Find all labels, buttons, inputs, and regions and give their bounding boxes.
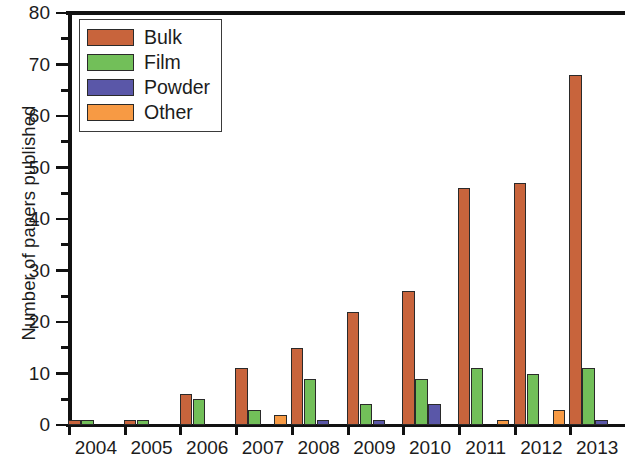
bar: [373, 420, 385, 425]
y-tick-major: [56, 424, 68, 427]
bar: [235, 368, 247, 425]
x-tick: [514, 425, 517, 435]
legend-swatch-icon: [87, 104, 134, 121]
x-tick-label: 2009: [342, 437, 406, 459]
y-tick-label: 80: [4, 2, 50, 24]
y-tick-minor: [61, 398, 68, 401]
legend-label: Powder: [144, 78, 210, 98]
y-tick-major: [56, 166, 68, 169]
bar: [595, 420, 607, 425]
bar: [582, 368, 594, 425]
bar: [193, 399, 205, 425]
bar: [428, 404, 440, 425]
x-tick-label: 2007: [231, 437, 295, 459]
x-tick-label: 2005: [120, 437, 184, 459]
y-tick-label: 10: [4, 363, 50, 385]
y-tick-minor: [61, 140, 68, 143]
bar: [248, 410, 260, 425]
y-tick-minor: [61, 89, 68, 92]
y-tick-label: 0: [4, 414, 50, 436]
y-tick-major: [56, 269, 68, 272]
legend-swatch-icon: [87, 54, 134, 71]
bar: [81, 420, 93, 425]
bar-chart-figure: Number of papers published 0102030405060…: [0, 0, 625, 469]
y-tick-minor: [61, 37, 68, 40]
y-tick-major: [56, 115, 68, 118]
x-tick: [402, 425, 405, 435]
legend-item-other: Other: [87, 100, 210, 125]
bar: [304, 379, 316, 425]
x-tick: [124, 425, 127, 435]
bar: [274, 415, 286, 425]
x-tick-label: 2004: [64, 437, 128, 459]
bar: [180, 394, 192, 425]
x-tick: [235, 425, 238, 435]
y-tick-label: 60: [4, 105, 50, 127]
x-tick-label: 2006: [175, 437, 239, 459]
y-tick-label: 30: [4, 260, 50, 282]
y-tick-label: 20: [4, 311, 50, 333]
y-tick-label: 50: [4, 157, 50, 179]
x-tick: [68, 425, 71, 435]
x-tick: [569, 425, 572, 435]
bar: [569, 75, 581, 425]
x-tick-label: 2013: [565, 437, 625, 459]
bar: [137, 420, 149, 425]
y-tick-major: [56, 218, 68, 221]
legend-label: Bulk: [144, 28, 182, 48]
y-tick-major: [56, 372, 68, 375]
x-tick-label: 2012: [509, 437, 573, 459]
y-tick-minor: [61, 346, 68, 349]
legend-label: Other: [144, 103, 193, 123]
bar: [458, 188, 470, 425]
x-tick: [458, 425, 461, 435]
x-tick-label: 2011: [454, 437, 518, 459]
bar: [402, 291, 414, 425]
bar: [471, 368, 483, 425]
y-tick-minor: [61, 192, 68, 195]
legend-item-powder: Powder: [87, 75, 210, 100]
bar: [497, 420, 509, 425]
legend-swatch-icon: [87, 79, 134, 96]
x-tick: [347, 425, 350, 435]
y-tick-label: 40: [4, 208, 50, 230]
bar: [317, 420, 329, 425]
bar: [527, 374, 539, 426]
bar: [553, 410, 565, 425]
y-tick-label: 70: [4, 54, 50, 76]
y-tick-major: [56, 12, 68, 15]
legend-swatch-icon: [87, 29, 134, 46]
y-tick-major: [56, 63, 68, 66]
x-tick: [179, 425, 182, 435]
bar: [360, 404, 372, 425]
legend-item-film: Film: [87, 50, 210, 75]
x-tick: [291, 425, 294, 435]
bar: [514, 183, 526, 425]
legend: BulkFilmPowderOther: [79, 19, 222, 132]
bar: [415, 379, 427, 425]
y-tick-major: [56, 321, 68, 324]
bar: [347, 312, 359, 425]
bar: [291, 348, 303, 425]
y-tick-minor: [61, 243, 68, 246]
legend-item-bulk: Bulk: [87, 25, 210, 50]
y-tick-minor: [61, 295, 68, 298]
x-tick-label: 2008: [287, 437, 351, 459]
x-tick-label: 2010: [398, 437, 462, 459]
legend-label: Film: [144, 53, 181, 73]
